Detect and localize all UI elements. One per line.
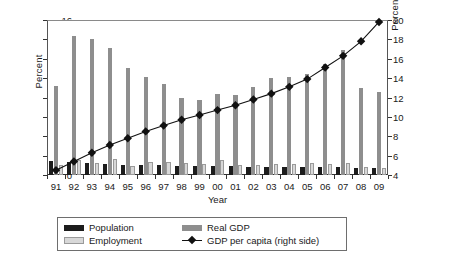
bar-group	[65, 20, 83, 175]
bar-group	[352, 20, 370, 175]
bar-pop	[372, 168, 376, 175]
x-axis-title: Year	[47, 194, 388, 205]
legend-label-employment: Employment	[89, 235, 142, 246]
x-tickmark	[352, 175, 353, 179]
bar-emp	[166, 162, 170, 175]
x-tick-label: 01	[230, 181, 241, 192]
bar-group	[334, 20, 352, 175]
legend-item-real-gdp: Real GDP	[182, 222, 250, 233]
bar-emp	[238, 165, 242, 175]
legend-label-gdp-per-capita: GDP per capita (right side)	[207, 235, 319, 246]
x-tickmark	[388, 175, 389, 179]
bar-pop	[300, 167, 304, 175]
bar-emp	[292, 164, 296, 175]
y-tickmark-right	[388, 117, 392, 118]
legend-swatch-employment-icon	[64, 237, 84, 244]
bar-group	[316, 20, 334, 175]
bar-gdp	[179, 98, 183, 175]
x-tickmark	[119, 175, 120, 179]
bar-gdp	[359, 88, 363, 175]
x-tick-label: 92	[69, 181, 80, 192]
bar-gdp	[197, 100, 201, 175]
bar-emp	[95, 163, 99, 175]
legend-row-1: Population Real GDP	[64, 221, 340, 234]
legend-row-2: Employment GDP per capita (right side)	[64, 234, 340, 247]
x-tickmark	[262, 175, 263, 179]
y-tick-right: 4	[393, 170, 415, 181]
x-tickmark	[191, 175, 192, 179]
bar-pop	[67, 162, 71, 175]
x-tick-label: 96	[140, 181, 151, 192]
x-tick-label: 05	[302, 181, 313, 192]
bar-emp	[59, 165, 63, 175]
bar-emp	[274, 164, 278, 175]
bar-pop	[175, 166, 179, 175]
y-tick-right: 8	[393, 131, 415, 142]
bar-group	[101, 20, 119, 175]
bar-group	[370, 20, 388, 175]
bar-gdp	[72, 36, 76, 175]
y-tick-right: 18	[393, 34, 415, 45]
bar-gdp	[126, 68, 130, 175]
x-tickmark	[137, 175, 138, 179]
y-axis-title-left: Percent	[33, 32, 44, 112]
bar-group	[137, 20, 155, 175]
bar-gdp	[305, 74, 309, 175]
bar-pop	[318, 167, 322, 175]
bar-pop	[336, 167, 340, 175]
bar-group	[119, 20, 137, 175]
x-tick-label: 04	[284, 181, 295, 192]
legend-item-employment: Employment	[64, 235, 182, 246]
x-tickmark	[209, 175, 210, 179]
chart-legend: Population Real GDP Employment GDP per c…	[57, 217, 347, 251]
bar-pop	[103, 164, 107, 175]
bar-group	[191, 20, 209, 175]
bar-gdp	[269, 78, 273, 175]
x-tickmark	[334, 175, 335, 179]
y-tick-right: 10	[393, 111, 415, 122]
bar-gdp	[215, 94, 219, 175]
bar-pop	[157, 165, 161, 175]
bar-group	[226, 20, 244, 175]
bar-emp	[130, 166, 134, 175]
x-tick-label: 94	[105, 181, 116, 192]
x-tickmark	[298, 175, 299, 179]
bar-gdp	[251, 87, 255, 175]
y-tick-right: 12	[393, 92, 415, 103]
legend-label-real-gdp: Real GDP	[207, 222, 250, 233]
x-tick-label: 07	[338, 181, 349, 192]
bar-pop	[85, 163, 89, 175]
bar-emp	[346, 163, 350, 175]
legend-swatch-population-icon	[64, 225, 84, 231]
bar-emp	[220, 160, 224, 175]
bar-group	[262, 20, 280, 175]
x-tick-label: 08	[356, 181, 367, 192]
bar-gdp	[377, 92, 381, 175]
x-tickmark	[65, 175, 66, 179]
x-tickmark	[83, 175, 84, 179]
x-tick-label: 91	[51, 181, 62, 192]
legend-item-gdp-per-capita: GDP per capita (right side)	[182, 235, 319, 246]
y-tick-right: 14	[393, 73, 415, 84]
x-tick-label: 06	[320, 181, 331, 192]
legend-swatch-real-gdp-icon	[182, 225, 202, 231]
y-tick-right: 16	[393, 53, 415, 64]
x-tick-label: 03	[266, 181, 277, 192]
x-tickmark	[280, 175, 281, 179]
bar-emp	[328, 164, 332, 175]
y-tickmark-right	[388, 98, 392, 99]
y-tickmark-right	[388, 39, 392, 40]
bar-emp	[184, 163, 188, 175]
bar-group	[298, 20, 316, 175]
bar-gdp	[162, 84, 166, 175]
bar-pop	[229, 166, 233, 175]
bar-gdp	[144, 77, 148, 175]
bar-pop	[121, 165, 125, 175]
bar-pop	[211, 166, 215, 175]
bar-emp	[113, 159, 117, 175]
y-tickmark-right	[388, 78, 392, 79]
y-tickmark-right	[388, 156, 392, 157]
bar-pop	[354, 168, 358, 175]
x-tick-label: 99	[194, 181, 205, 192]
bar-pop	[193, 166, 197, 175]
